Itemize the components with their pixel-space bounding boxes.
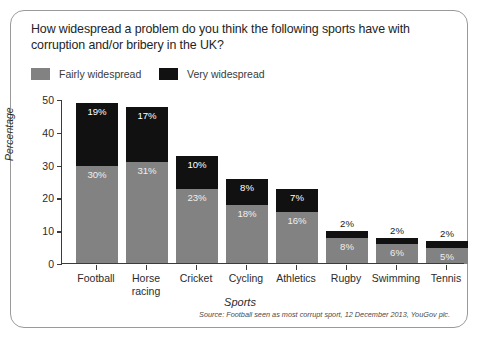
bar-segment-very-widespread[interactable]: 8% bbox=[226, 179, 268, 205]
y-axis-label: Percentage bbox=[3, 107, 15, 161]
bar-segment-very-widespread[interactable]: 19% bbox=[76, 103, 118, 165]
y-axis-tick-mark bbox=[57, 231, 62, 232]
x-axis-labels: FootballHorseracingCricketCyclingAthleti… bbox=[61, 265, 464, 297]
y-axis-tick-label: 0 bbox=[48, 258, 54, 270]
y-axis-tick-mark bbox=[57, 198, 62, 199]
bar-segment-very-widespread[interactable]: 7% bbox=[276, 189, 318, 212]
bar-group[interactable]: 18%8% bbox=[226, 179, 268, 264]
bar-label-very-widespread: 19% bbox=[76, 106, 118, 117]
bar-segment-very-widespread[interactable]: 2% bbox=[326, 231, 368, 238]
bar-label-fairly-widespread: 6% bbox=[376, 247, 418, 258]
y-axis-tick-label: 40 bbox=[42, 127, 54, 139]
bar-label-very-widespread: 2% bbox=[426, 228, 468, 239]
legend-label-fairly-widespread: Fairly widespread bbox=[59, 68, 141, 80]
bar-group[interactable]: 23%10% bbox=[176, 156, 218, 264]
bar-label-fairly-widespread: 8% bbox=[326, 241, 368, 252]
bar-label-fairly-widespread: 18% bbox=[226, 208, 268, 219]
bar-group[interactable]: 30%19% bbox=[76, 103, 118, 264]
legend-item-fairly-widespread: Fairly widespread bbox=[31, 66, 141, 82]
x-axis-tick-mark bbox=[346, 265, 347, 270]
chart-title: How widespread a problem do you think th… bbox=[31, 21, 449, 53]
y-axis-tick-mark bbox=[57, 166, 62, 167]
bar-label-very-widespread: 10% bbox=[176, 159, 218, 170]
bar-group[interactable]: 5%2% bbox=[426, 241, 468, 264]
bar-segment-very-widespread[interactable]: 17% bbox=[126, 107, 168, 163]
bar-segment-fairly-widespread[interactable]: 31% bbox=[126, 162, 168, 264]
chart-card: How widespread a problem do you think th… bbox=[10, 10, 468, 328]
bar-label-very-widespread: 7% bbox=[276, 192, 318, 203]
x-axis-tick-mark bbox=[446, 265, 447, 270]
bar-segment-fairly-widespread[interactable]: 6% bbox=[376, 244, 418, 264]
x-axis-tick-mark bbox=[146, 265, 147, 270]
bar-segment-fairly-widespread[interactable]: 8% bbox=[326, 238, 368, 264]
bar-label-fairly-widespread: 23% bbox=[176, 192, 218, 203]
bar-group[interactable]: 31%17% bbox=[126, 107, 168, 264]
bar-label-fairly-widespread: 30% bbox=[76, 169, 118, 180]
x-axis-tick-mark bbox=[396, 265, 397, 270]
bar-label-fairly-widespread: 5% bbox=[426, 251, 468, 262]
y-axis-tick-label: 20 bbox=[42, 192, 54, 204]
bar-label-fairly-widespread: 31% bbox=[126, 165, 168, 176]
y-axis-tick-label: 50 bbox=[42, 94, 54, 106]
plot-area: 01020304050 30%19%31%17%23%10%18%8%16%7%… bbox=[61, 100, 463, 264]
x-axis-label: Sports bbox=[11, 296, 469, 308]
bar-label-very-widespread: 2% bbox=[326, 218, 368, 229]
x-axis-tick-mark bbox=[296, 265, 297, 270]
bar-segment-very-widespread[interactable]: 2% bbox=[376, 238, 418, 245]
x-axis-tick-mark bbox=[96, 265, 97, 270]
legend-item-very-widespread: Very widespread bbox=[159, 66, 265, 82]
legend-label-very-widespread: Very widespread bbox=[187, 68, 265, 80]
x-axis-tick-mark bbox=[246, 265, 247, 270]
bar-segment-fairly-widespread[interactable]: 30% bbox=[76, 166, 118, 264]
bar-segment-fairly-widespread[interactable]: 23% bbox=[176, 189, 218, 264]
bar-segment-very-widespread[interactable]: 2% bbox=[426, 241, 468, 248]
bar-group[interactable]: 16%7% bbox=[276, 189, 318, 264]
bar-label-fairly-widespread: 16% bbox=[276, 215, 318, 226]
bar-segment-fairly-widespread[interactable]: 16% bbox=[276, 212, 318, 264]
legend-swatch-very-widespread bbox=[159, 68, 178, 80]
legend-swatch-fairly-widespread bbox=[31, 68, 50, 80]
y-axis-tick-label: 10 bbox=[42, 225, 54, 237]
y-axis-tick-mark bbox=[57, 100, 62, 101]
bar-segment-very-widespread[interactable]: 10% bbox=[176, 156, 218, 189]
bar-label-very-widespread: 8% bbox=[226, 182, 268, 193]
y-axis-tick-mark bbox=[57, 133, 62, 134]
source-note: Source: Football seen as most corrupt sp… bbox=[199, 310, 450, 319]
y-axis-tick-label: 30 bbox=[42, 160, 54, 172]
bar-label-very-widespread: 2% bbox=[376, 225, 418, 236]
bar-label-very-widespread: 17% bbox=[126, 110, 168, 121]
bar-group[interactable]: 8%2% bbox=[326, 231, 368, 264]
bar-group[interactable]: 6%2% bbox=[376, 238, 418, 264]
x-axis-tick-mark bbox=[196, 265, 197, 270]
bar-segment-fairly-widespread[interactable]: 5% bbox=[426, 248, 468, 264]
x-axis-tick-label: Tennis bbox=[408, 272, 480, 285]
bar-segment-fairly-widespread[interactable]: 18% bbox=[226, 205, 268, 264]
